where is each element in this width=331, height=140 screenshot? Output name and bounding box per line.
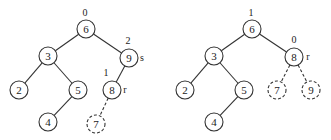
balance-annotation: 1 <box>249 7 254 18</box>
tree-node-3: 3 <box>39 47 57 65</box>
edge-3-2 <box>191 63 208 83</box>
tree-rotation-diagram: 60392s2581r4761380r25794 <box>0 0 331 140</box>
node-key: 6 <box>249 23 255 35</box>
tree-node-4: 4 <box>39 113 57 131</box>
node-key: 4 <box>211 116 217 128</box>
tree-node-9: 9 <box>302 81 320 99</box>
edge-3-2 <box>25 63 42 83</box>
tree-node-6: 60 <box>77 7 95 38</box>
node-key: 4 <box>45 116 51 128</box>
node-key: 9 <box>308 84 314 96</box>
tree-node-2: 2 <box>176 81 194 99</box>
balance-annotation: 0 <box>292 34 297 45</box>
pointer-label: r <box>123 84 127 95</box>
node-key: 2 <box>16 84 22 96</box>
node-key: 7 <box>274 84 280 96</box>
balance-annotation: 2 <box>126 35 131 46</box>
tree-node-5: 5 <box>235 81 253 99</box>
node-key: 6 <box>83 23 89 35</box>
edge-8-7 <box>281 65 290 82</box>
edge-9-8 <box>116 66 125 82</box>
node-key: 2 <box>182 84 188 96</box>
tree-node-2: 2 <box>10 81 28 99</box>
edge-8-9 <box>298 65 307 82</box>
node-key: 3 <box>45 50 51 62</box>
tree-before: 60392s2581r47 <box>10 7 144 133</box>
edge-8-7 <box>100 98 108 116</box>
tree-node-4: 4 <box>205 113 223 131</box>
edge-6-3 <box>221 34 244 51</box>
node-key: 3 <box>211 50 217 62</box>
node-key: 7 <box>93 118 99 130</box>
pointer-label: r <box>306 51 310 62</box>
node-key: 8 <box>109 84 115 96</box>
edge-3-5 <box>54 63 72 84</box>
node-key: 5 <box>241 84 247 96</box>
edge-6-9 <box>93 34 121 53</box>
tree-after: 61380r25794 <box>176 7 320 131</box>
tree-node-7: 7 <box>87 115 105 133</box>
tree-node-5: 5 <box>69 81 87 99</box>
node-key: 8 <box>291 51 297 63</box>
tree-node-6: 61 <box>243 7 261 38</box>
balance-annotation: 0 <box>83 7 88 18</box>
edge-3-5 <box>220 63 238 84</box>
tree-node-9: 92s <box>120 35 144 67</box>
edge-5-4 <box>54 97 72 116</box>
tree-node-7: 7 <box>268 81 286 99</box>
pointer-label: s <box>140 52 144 63</box>
edge-6-3 <box>55 34 78 51</box>
edge-5-4 <box>220 97 238 116</box>
node-key: 9 <box>126 52 132 64</box>
node-key: 5 <box>75 84 81 96</box>
tree-node-8: 80r <box>285 34 310 66</box>
edge-6-8 <box>259 34 286 52</box>
tree-node-8: 81r <box>103 67 127 99</box>
tree-node-3: 3 <box>205 47 223 65</box>
balance-annotation: 1 <box>104 67 109 78</box>
